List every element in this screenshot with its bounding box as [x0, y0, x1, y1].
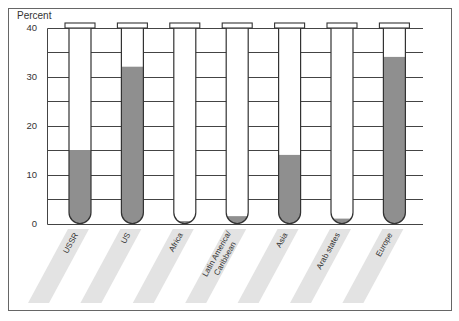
tube-cap — [170, 23, 200, 28]
tube-bar-ussr — [65, 23, 95, 226]
y-tick-label: 40 — [26, 22, 37, 33]
tube-fill — [382, 57, 406, 226]
tube-body — [226, 28, 248, 224]
tube-cap — [117, 23, 147, 28]
tube-fill — [68, 150, 92, 226]
tube-fill — [120, 67, 144, 226]
category-label-band — [80, 229, 141, 303]
category-label-band — [28, 229, 89, 303]
tube-body — [174, 28, 196, 224]
y-tick-label: 0 — [32, 218, 37, 229]
tube-bar-latin-america-caribbean — [222, 23, 252, 226]
tube-cap — [65, 23, 95, 28]
y-tick-label: 30 — [26, 71, 37, 82]
category-label-band — [133, 229, 194, 303]
category-label-band — [238, 229, 299, 303]
tube-bar-europe — [379, 23, 409, 226]
tube-bars — [65, 23, 409, 226]
y-tick-label: 10 — [26, 169, 37, 180]
tube-cap — [327, 23, 357, 28]
tube-fill — [278, 155, 302, 226]
y-axis-title: Percent — [17, 10, 52, 21]
tube-cap — [379, 23, 409, 28]
category-label-band — [342, 229, 403, 303]
tube-bar-arab-states — [327, 23, 357, 226]
tube-body — [331, 28, 353, 224]
test-tube-bar-chart: Percent010203040USSRUSAfricaLatin Americ… — [0, 0, 459, 321]
tube-bar-africa — [170, 23, 200, 226]
y-tick-label: 20 — [26, 120, 37, 131]
tube-cap — [222, 23, 252, 28]
tube-cap — [275, 23, 305, 28]
tube-bar-asia — [275, 23, 305, 226]
tube-bar-us — [117, 23, 147, 226]
